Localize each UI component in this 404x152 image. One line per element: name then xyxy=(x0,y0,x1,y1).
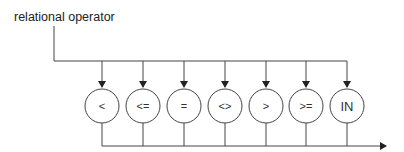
operator-node: < xyxy=(85,89,119,123)
operator-node: = xyxy=(167,89,201,123)
operator-node: IN xyxy=(330,89,364,123)
syntax-diagram-lines xyxy=(0,0,404,152)
operator-node: >= xyxy=(289,89,323,123)
operator-node: <> xyxy=(208,89,242,123)
operator-node: > xyxy=(249,89,283,123)
operator-node: <= xyxy=(126,89,160,123)
